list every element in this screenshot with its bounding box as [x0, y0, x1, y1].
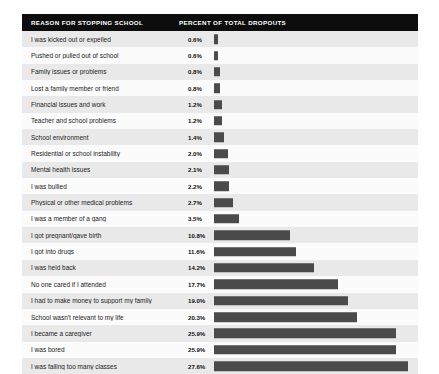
row-bar: [214, 214, 239, 224]
row-reason-label: I became a caregiver: [22, 330, 188, 337]
row-bar: [214, 83, 220, 93]
row-bar: [214, 312, 357, 322]
row-bar-track: [214, 129, 418, 145]
row-bar-track: [214, 227, 418, 243]
row-bar-track: [214, 178, 418, 194]
row-reason-label: Pushed or pulled out of school: [22, 52, 188, 59]
row-bar: [214, 329, 396, 339]
table-row: Physical or other medical problems2.7%: [22, 194, 418, 210]
row-reason-label: I got into drugs: [22, 248, 188, 255]
row-reason-label: Teacher and school problems: [22, 117, 188, 124]
row-bar: [214, 182, 229, 192]
row-bar-track: [214, 113, 418, 129]
table-row: I was kicked out or expelled0.6%: [22, 31, 418, 47]
row-bar: [214, 116, 222, 126]
row-reason-label: I had to make money to support my family: [22, 297, 188, 304]
row-percent-label: 27.6%: [188, 363, 214, 370]
row-percent-label: 1.2%: [188, 117, 214, 124]
table-row: I was bored25.9%: [22, 342, 418, 358]
row-bar: [214, 263, 314, 273]
column-header-percent: PERCENT OF TOTAL DROPOUTS: [179, 19, 286, 26]
row-bar-track: [214, 243, 418, 259]
row-percent-label: 17.7%: [188, 281, 214, 288]
row-percent-label: 3.5%: [188, 215, 214, 222]
row-percent-label: 20.3%: [188, 314, 214, 321]
row-bar: [214, 361, 408, 371]
row-bar-track: [214, 358, 418, 374]
row-bar-track: [214, 260, 418, 276]
table-row: School environment1.4%: [22, 129, 418, 145]
row-bar: [214, 231, 290, 241]
row-reason-label: I was failing too many classes: [22, 363, 188, 370]
row-bar-track: [214, 276, 418, 292]
table-row: School wasn't relevant to my life20.3%: [22, 309, 418, 325]
table-row: Lost a family member or friend0.8%: [22, 80, 418, 96]
row-reason-label: I was a member of a gang: [22, 215, 188, 222]
row-bar: [214, 198, 233, 208]
table-row: Residential or school instability2.0%: [22, 145, 418, 161]
row-percent-label: 0.6%: [188, 36, 214, 43]
row-reason-label: I was kicked out or expelled: [22, 36, 188, 43]
chart-rows: I was kicked out or expelled0.6%Pushed o…: [22, 31, 418, 374]
row-bar-track: [214, 80, 418, 96]
row-bar-track: [214, 31, 418, 47]
row-bar-track: [214, 47, 418, 63]
row-reason-label: I got pregnant/gave birth: [22, 232, 188, 239]
row-percent-label: 11.6%: [188, 248, 214, 255]
table-row: Family issues or problems0.8%: [22, 64, 418, 80]
row-bar-track: [214, 293, 418, 309]
table-row: I was failing too many classes27.6%: [22, 358, 418, 374]
row-reason-label: I was bored: [22, 346, 188, 353]
row-bar: [214, 67, 220, 77]
row-bar: [214, 149, 228, 159]
row-bar-track: [214, 309, 418, 325]
table-row: I was bullied2.2%: [22, 178, 418, 194]
row-bar-track: [214, 325, 418, 341]
row-bar: [214, 296, 348, 306]
table-header-row: REASON FOR STOPPING SCHOOL PERCENT OF TO…: [22, 14, 418, 31]
row-percent-label: 25.9%: [188, 346, 214, 353]
table-row: Mental health issues2.1%: [22, 162, 418, 178]
row-reason-label: Family issues or problems: [22, 68, 188, 75]
row-percent-label: 0.8%: [188, 68, 214, 75]
row-bar: [214, 247, 296, 257]
row-percent-label: 2.2%: [188, 183, 214, 190]
table-row: No one cared if I attended17.7%: [22, 276, 418, 292]
row-bar-track: [214, 162, 418, 178]
row-percent-label: 1.2%: [188, 101, 214, 108]
row-bar: [214, 51, 218, 61]
table-row: I got into drugs11.6%: [22, 243, 418, 259]
row-reason-label: Physical or other medical problems: [22, 199, 188, 206]
row-bar: [214, 280, 338, 290]
row-reason-label: School environment: [22, 134, 188, 141]
row-bar-track: [214, 64, 418, 80]
row-percent-label: 2.0%: [188, 150, 214, 157]
row-reason-label: Lost a family member or friend: [22, 85, 188, 92]
row-bar: [214, 165, 229, 175]
row-reason-label: Financial issues and work: [22, 101, 188, 108]
row-bar-track: [214, 96, 418, 112]
table-row: Teacher and school problems1.2%: [22, 113, 418, 129]
row-bar-track: [214, 211, 418, 227]
row-bar: [214, 132, 224, 142]
table-row: I was a member of a gang3.5%: [22, 211, 418, 227]
row-percent-label: 0.6%: [188, 52, 214, 59]
row-bar: [214, 100, 222, 110]
row-percent-label: 2.7%: [188, 199, 214, 206]
table-row: Financial issues and work1.2%: [22, 96, 418, 112]
column-header-reason: REASON FOR STOPPING SCHOOL: [22, 19, 179, 26]
table-row: I was held back14.2%: [22, 260, 418, 276]
row-percent-label: 14.2%: [188, 264, 214, 271]
row-bar-track: [214, 145, 418, 161]
table-row: I became a caregiver25.9%: [22, 325, 418, 341]
row-reason-label: Residential or school instability: [22, 150, 188, 157]
row-percent-label: 1.4%: [188, 134, 214, 141]
row-reason-label: I was held back: [22, 264, 188, 271]
row-percent-label: 25.9%: [188, 330, 214, 337]
row-percent-label: 10.8%: [188, 232, 214, 239]
row-bar-track: [214, 194, 418, 210]
table-row: I had to make money to support my family…: [22, 293, 418, 309]
row-percent-label: 0.8%: [188, 85, 214, 92]
row-reason-label: Mental health issues: [22, 166, 188, 173]
table-row: Pushed or pulled out of school0.6%: [22, 47, 418, 63]
